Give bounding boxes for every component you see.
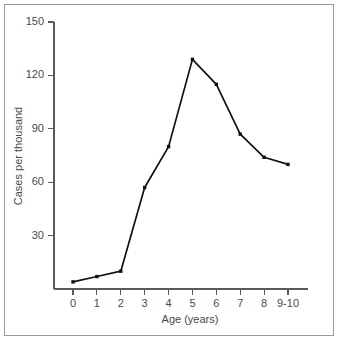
x-axis: 0123456789-10 Age (years) (54, 289, 308, 325)
x-tick-label-7: 7 (237, 297, 243, 309)
x-axis-tick-labels: 0123456789-10 (70, 297, 299, 309)
y-tick-label-90: 90 (32, 122, 44, 134)
data-point-age-6 (215, 83, 218, 86)
x-axis-title: Age (years) (162, 313, 219, 325)
line-chart: 306090120150 Cases per thousand 01234567… (0, 0, 342, 348)
data-point-age-8 (262, 156, 265, 159)
y-tick-label-30: 30 (32, 229, 44, 241)
y-axis-title: Cases per thousand (12, 107, 24, 205)
x-tick-label-2: 2 (118, 297, 124, 309)
data-point-age-0 (71, 280, 74, 283)
x-tick-label-0: 0 (70, 297, 76, 309)
data-point-age-3 (143, 186, 146, 189)
x-tick-label-3: 3 (142, 297, 148, 309)
data-series-group (71, 58, 289, 284)
data-markers-cases (71, 58, 289, 284)
y-axis: 306090120150 Cases per thousand (12, 15, 54, 289)
data-point-age-4 (167, 145, 170, 148)
x-tick-label-6: 6 (213, 297, 219, 309)
y-axis-ticks (48, 22, 54, 236)
y-tick-label-60: 60 (32, 175, 44, 187)
x-tick-label-4: 4 (165, 297, 171, 309)
x-axis-ticks (73, 289, 288, 295)
data-point-age-7 (239, 132, 242, 135)
chart-container: 306090120150 Cases per thousand 01234567… (0, 0, 342, 348)
data-point-age-9-10 (286, 163, 289, 166)
data-line-cases (73, 59, 288, 282)
data-point-age-1 (95, 275, 98, 278)
x-tick-label-9-10: 9-10 (277, 297, 299, 309)
y-tick-label-150: 150 (26, 15, 44, 27)
x-tick-label-5: 5 (189, 297, 195, 309)
y-axis-tick-labels: 306090120150 (26, 15, 44, 241)
x-tick-label-8: 8 (261, 297, 267, 309)
data-point-age-5 (191, 58, 194, 61)
x-tick-label-1: 1 (94, 297, 100, 309)
y-tick-label-120: 120 (26, 68, 44, 80)
data-point-age-2 (119, 270, 122, 273)
